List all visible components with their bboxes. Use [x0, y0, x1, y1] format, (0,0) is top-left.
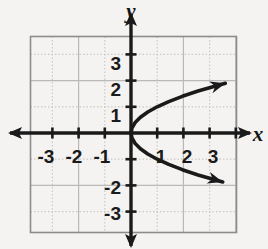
x-tick-label-neg2: -2 [66, 146, 83, 167]
x-tick-label-neg3: -3 [38, 146, 55, 167]
y-tick-label-3: 3 [110, 53, 121, 74]
x-axis-label: x [252, 122, 264, 146]
x-tick-label-neg1: -1 [94, 146, 111, 167]
graph-canvas: -3 -2 -1 1 2 3 3 2 1 -2 -3 y x [0, 0, 268, 249]
coordinate-plane-figure: -3 -2 -1 1 2 3 3 2 1 -2 -3 y x [0, 0, 268, 249]
x-tick-label-2: 2 [182, 146, 193, 167]
y-tick-label-2: 2 [110, 79, 121, 100]
y-tick-label-1: 1 [110, 105, 121, 126]
y-tick-label-neg2: -2 [104, 177, 121, 198]
x-tick-label-3: 3 [208, 146, 219, 167]
x-tick-label-1: 1 [156, 146, 167, 167]
y-tick-label-neg3: -3 [104, 203, 121, 224]
